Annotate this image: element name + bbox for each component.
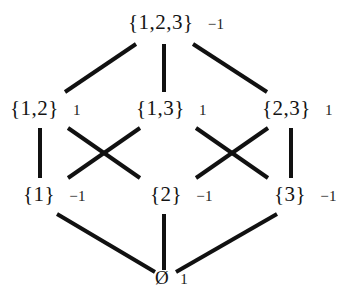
node-set-3[interactable]: {3}−1 <box>274 184 337 205</box>
node-set-2-value: −1 <box>196 188 213 204</box>
edge-empty-s1 <box>57 214 155 272</box>
edge-empty-s3 <box>176 214 277 272</box>
node-set-23[interactable]: {2,3}1 <box>262 98 333 119</box>
node-empty-set-label: Ø <box>155 267 169 288</box>
node-full-set-value: −1 <box>208 16 225 32</box>
node-full-set-label: {1,2,3} <box>128 10 194 34</box>
node-set-12-label: {1,2} <box>10 96 59 120</box>
node-set-1-value: −1 <box>69 188 86 204</box>
node-empty-set-value: 1 <box>180 271 188 287</box>
node-full-set[interactable]: {1,2,3}−1 <box>128 12 224 33</box>
hasse-diagram-figure: {1,2,3}−1 {1,2}1 {1,3}1 {2,3}1 {1}−1 {2}… <box>0 0 361 302</box>
node-set-2[interactable]: {2}−1 <box>150 184 213 205</box>
node-set-1[interactable]: {1}−1 <box>23 184 86 205</box>
node-set-1-label: {1} <box>23 182 55 206</box>
node-empty-set[interactable]: Ø1 <box>155 268 188 287</box>
node-set-3-label: {3} <box>274 182 306 206</box>
node-set-23-label: {2,3} <box>262 96 311 120</box>
node-set-13[interactable]: {1,3}1 <box>136 98 207 119</box>
node-set-3-value: −1 <box>320 188 337 204</box>
node-set-12-value: 1 <box>73 102 81 118</box>
node-set-12[interactable]: {1,2}1 <box>10 98 81 119</box>
node-set-13-label: {1,3} <box>136 96 185 120</box>
node-set-2-label: {2} <box>150 182 182 206</box>
edge-layer <box>0 0 361 302</box>
edge-s23-full <box>193 44 267 92</box>
edge-s12-full <box>65 44 136 92</box>
node-set-13-value: 1 <box>199 102 207 118</box>
node-set-23-value: 1 <box>325 102 333 118</box>
